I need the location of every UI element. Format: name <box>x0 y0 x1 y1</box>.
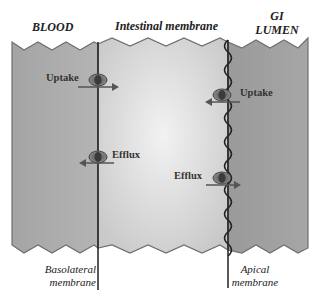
apical-label-line2: membrane <box>230 276 280 289</box>
membrane-diagram <box>0 0 316 293</box>
intestinal-cell-region <box>98 38 228 253</box>
efflux-label-apical: Efflux <box>174 170 202 181</box>
apical-label-line1: Apical <box>230 263 280 276</box>
intestinal-membrane-label: Intestinal membrane <box>115 19 218 34</box>
gi-lumen-region <box>228 38 308 253</box>
basolateral-label-line2: membrane <box>44 276 96 289</box>
uptake-label-apical: Uptake <box>240 87 273 98</box>
efflux-label-basolateral: Efflux <box>112 149 140 160</box>
gi-lumen-label-line2: LUMEN <box>248 23 306 38</box>
gi-lumen-label-line1: GI <box>262 9 292 24</box>
uptake-label-basolateral: Uptake <box>46 72 79 83</box>
blood-label: BLOOD <box>32 20 73 35</box>
basolateral-label-line1: Basolateral <box>44 263 96 276</box>
